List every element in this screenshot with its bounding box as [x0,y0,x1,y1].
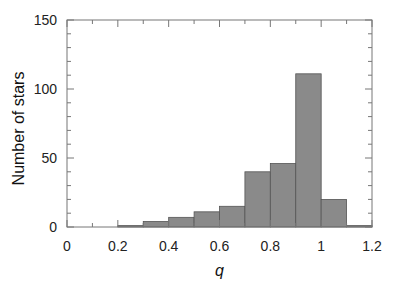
histogram-bar [321,199,346,227]
histogram-bar [143,221,168,227]
histogram-bar [270,164,295,227]
y-tick-label: 150 [34,12,58,28]
histogram-bar [220,206,245,227]
y-tick-label: 0 [49,219,57,235]
x-tick-label: 0.2 [108,238,128,254]
histogram-bar [245,172,270,227]
x-tick-label: 1 [317,238,325,254]
histogram-bar [296,74,321,227]
histogram-bar [169,217,194,227]
x-axis-label: q [215,262,224,279]
x-tick-label: 0.6 [210,238,230,254]
plot-frame [67,20,372,227]
bars-group [118,74,372,227]
histogram-chart: 00.20.40.60.811.2050100150 q Number of s… [0,0,394,290]
x-tick-label: 0.8 [261,238,281,254]
y-axis-label: Number of stars [10,72,27,186]
x-tick-label: 0.4 [159,238,179,254]
x-tick-label: 1.2 [362,238,382,254]
y-tick-label: 100 [34,81,58,97]
x-tick-label: 0 [63,238,71,254]
y-tick-label: 50 [41,150,57,166]
histogram-bar [194,212,219,227]
